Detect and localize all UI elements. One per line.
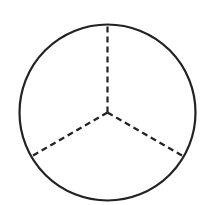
dashed-radius-3: [108, 113, 184, 157]
dashed-radii-group: [31, 25, 183, 157]
diagram-canvas: [0, 0, 205, 205]
dashed-radius-2: [31, 113, 107, 157]
